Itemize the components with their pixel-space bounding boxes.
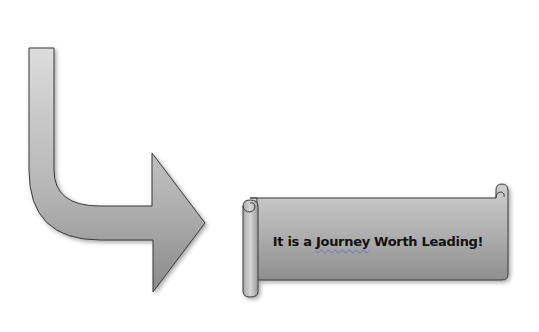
banner-text: It is a Journey Worth Leading! [258,226,498,256]
diagram-canvas [0,0,539,332]
bent-arrow-icon [29,48,205,292]
banner-text-before: It is a [273,234,316,249]
banner-text-flagged-word: Journey [316,234,370,249]
banner-text-after: Worth Leading! [370,234,483,249]
